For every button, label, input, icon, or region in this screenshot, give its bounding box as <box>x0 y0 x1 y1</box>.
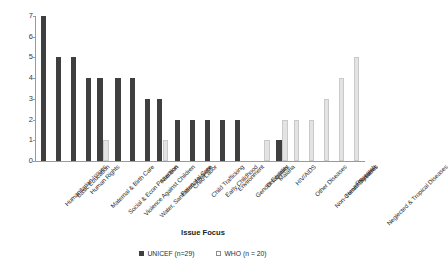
y-tick-label: 6 <box>29 33 33 41</box>
bar-group <box>170 16 185 161</box>
bar-group <box>185 16 200 161</box>
bar-group <box>275 16 290 161</box>
bar-group <box>215 16 230 161</box>
bar-group <box>36 16 51 161</box>
bar-unicef <box>115 78 120 161</box>
x-tick-label: Neglected & Tropical Diseases <box>385 163 448 227</box>
bar-who <box>309 120 314 161</box>
x-axis-line <box>35 161 365 162</box>
bar-group <box>51 16 66 161</box>
bar-unicef <box>56 57 61 161</box>
bar-unicef <box>190 120 195 161</box>
y-tick-label: 4 <box>29 74 33 82</box>
legend-swatch <box>216 251 221 256</box>
bar-group <box>66 16 81 161</box>
legend-item: UNICEF (n=29) <box>139 250 194 257</box>
x-tick-label: HIV/AIDS <box>294 163 317 186</box>
bar-group <box>96 16 111 161</box>
bar-group <box>304 16 319 161</box>
legend-item: WHO (n = 20) <box>216 250 266 257</box>
y-tick-label: 7 <box>29 12 33 20</box>
bar-unicef <box>86 78 91 161</box>
y-tick-label: 2 <box>29 116 33 124</box>
bar-group <box>81 16 96 161</box>
bar-group <box>155 16 170 161</box>
y-tick-mark <box>33 161 36 162</box>
bar-who <box>282 120 287 161</box>
bar-group <box>260 16 275 161</box>
bar-unicef <box>235 120 240 161</box>
bar-who <box>103 140 108 161</box>
bar-who <box>324 99 329 161</box>
legend-label: WHO (n = 20) <box>224 250 266 257</box>
bar-series-container <box>36 16 364 161</box>
legend-label: UNICEF (n=29) <box>147 250 194 257</box>
y-tick-label: 5 <box>29 54 33 62</box>
bar-group <box>245 16 260 161</box>
x-axis-title: Issue Focus <box>0 228 406 237</box>
bar-unicef <box>97 78 102 161</box>
bar-who <box>163 140 168 161</box>
bar-group <box>289 16 304 161</box>
bar-unicef <box>220 120 225 161</box>
bar-unicef <box>145 99 150 161</box>
bar-group <box>125 16 140 161</box>
bar-unicef <box>71 57 76 161</box>
bar-who <box>294 120 299 161</box>
x-tick-label: Malaria <box>277 163 296 182</box>
y-axis-title-container: Number of Partnerships <box>2 14 14 162</box>
y-tick-label: 0 <box>29 157 33 165</box>
bar-who <box>339 78 344 161</box>
bar-group <box>230 16 245 161</box>
bar-who <box>354 57 359 161</box>
legend-swatch <box>139 251 144 256</box>
bar-group <box>140 16 155 161</box>
y-tick-label: 3 <box>29 95 33 103</box>
bar-unicef <box>175 120 180 161</box>
bar-group <box>200 16 215 161</box>
y-tick-label: 1 <box>29 137 33 145</box>
bar-unicef <box>41 16 46 161</box>
bar-who <box>264 140 269 161</box>
x-tick-label: Research <box>353 163 376 186</box>
bar-unicef <box>130 78 135 161</box>
plot-area: 01234567 <box>36 16 364 161</box>
bar-group <box>111 16 126 161</box>
bar-unicef <box>205 120 210 161</box>
bar-unicef <box>157 99 162 161</box>
y-axis-title: Number of Partnerships <box>15 0 27 31</box>
bar-group <box>334 16 349 161</box>
bar-group <box>319 16 334 161</box>
bar-group <box>349 16 364 161</box>
chart-legend: UNICEF (n=29)WHO (n = 20) <box>0 250 406 257</box>
bar-unicef <box>276 140 281 161</box>
